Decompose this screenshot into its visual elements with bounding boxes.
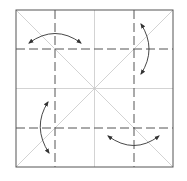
origami-diagram: [0, 0, 187, 181]
crease-lines: [16, 10, 173, 167]
